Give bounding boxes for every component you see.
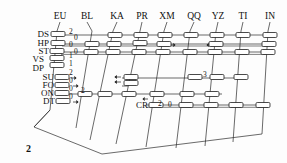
node[interactable] [205,92,219,97]
node[interactable] [183,50,197,55]
node[interactable] [180,92,194,97]
annotation-value: 0 [74,47,78,56]
arrow-left-icon [115,75,121,78]
node[interactable] [56,99,70,104]
arrow-right-icon [73,84,78,87]
annotation-value: 0 [69,40,73,49]
column-header-qq: QQ [187,11,201,21]
node[interactable] [210,33,224,38]
node[interactable] [51,41,65,46]
node[interactable] [50,63,64,68]
node-group [50,32,277,108]
column-header-ti: TI [239,11,248,21]
node[interactable] [107,42,121,47]
node[interactable] [204,103,218,108]
node[interactable] [51,32,65,37]
inline-label-cr: CR [136,100,148,110]
column-header-yz: YZ [212,11,225,21]
inline-labels: CR 2 [26,100,148,154]
arrow-right-icon [73,100,78,103]
node[interactable] [209,42,223,47]
annotation-value: 0 [74,33,78,42]
figure-number: 2 [26,143,31,154]
node[interactable] [157,42,171,47]
node[interactable] [134,33,148,38]
column-stems [57,22,270,31]
node[interactable] [179,103,193,108]
node[interactable] [50,49,64,54]
row-label-dp: DP [32,63,44,73]
node[interactable] [208,50,222,55]
row-label-dt: DT [43,96,55,106]
node[interactable] [98,92,112,97]
node[interactable] [263,33,277,38]
node[interactable] [55,91,69,96]
node[interactable] [133,41,147,46]
node[interactable] [55,75,69,80]
node[interactable] [55,83,69,88]
annotation-value: 2 [69,27,73,36]
node[interactable] [158,33,172,38]
node[interactable] [124,81,138,86]
column-header-bl: BL [81,11,93,21]
node[interactable] [210,75,224,80]
column-header-pr: PR [136,11,148,21]
column-header-eu: EU [54,11,67,21]
node[interactable] [262,42,276,47]
node[interactable] [122,92,136,97]
column-header-in: IN [265,11,275,21]
node[interactable] [124,75,138,80]
node[interactable] [234,75,248,80]
annotation-value: 1 [69,59,73,68]
node[interactable] [132,50,146,55]
annotation-value: 2 [158,99,162,108]
diagram-svg: EU BL KA PR XM QQ YZ TI IN DS HP ST VS D… [0,0,287,163]
node[interactable] [235,50,249,55]
annotation-value: 3 [203,70,207,79]
node[interactable] [184,33,198,38]
column-headers: EU BL KA PR XM QQ YZ TI IN [54,11,275,21]
node[interactable] [108,33,122,38]
node[interactable] [85,42,99,47]
node[interactable] [84,50,98,55]
figure-canvas: EU BL KA PR XM QQ YZ TI IN DS HP ST VS D… [0,0,287,163]
annotation-value: 2 [81,86,85,95]
column-header-xm: XM [159,11,175,21]
node[interactable] [261,50,275,55]
node[interactable] [236,33,250,38]
annotation-value: 0 [168,100,172,109]
node[interactable] [229,103,243,108]
node[interactable] [256,103,270,108]
column-header-ka: KA [110,11,124,21]
node[interactable] [50,56,64,61]
arrow-left-icon [115,80,121,83]
node[interactable] [188,75,202,80]
node[interactable] [156,50,170,55]
node[interactable] [106,50,120,55]
node[interactable] [150,92,164,97]
annotation-value: 0 [69,92,73,101]
